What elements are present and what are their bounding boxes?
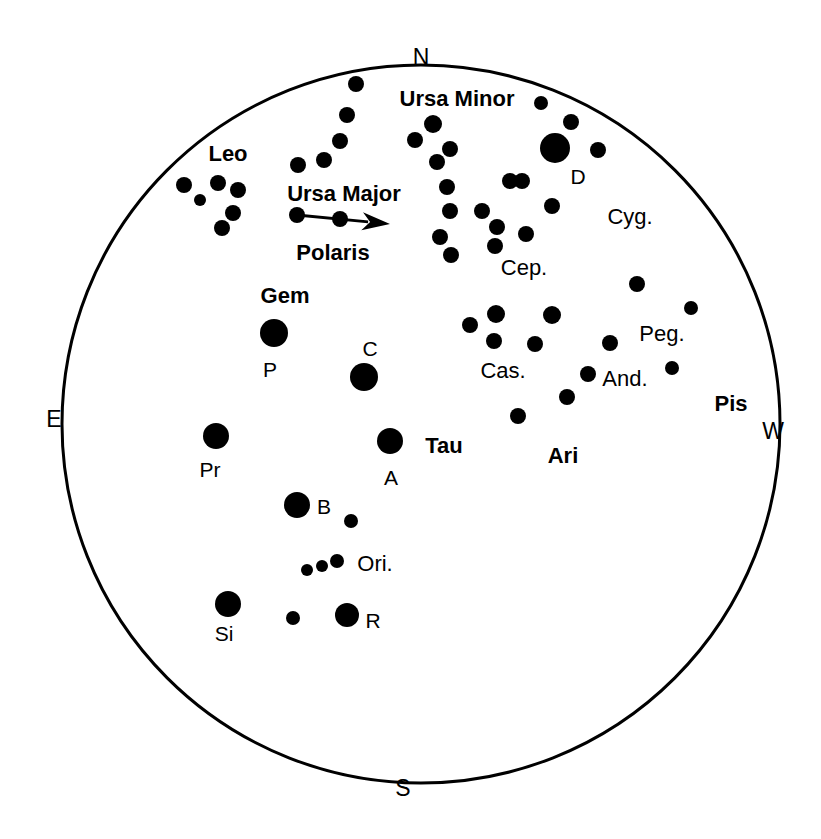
star-dot: [377, 428, 403, 454]
star-dot: [424, 115, 442, 133]
cardinal-south: S: [395, 777, 410, 800]
star-dot: [210, 175, 226, 191]
star-dot: [527, 336, 543, 352]
star-dot: [544, 198, 560, 214]
star-dot: [203, 423, 229, 449]
star-dot: [330, 554, 344, 568]
star-dot: [559, 389, 575, 405]
star-dot: [301, 564, 313, 576]
constellation-label-aries: Ari: [548, 445, 579, 467]
star-dot: [534, 96, 548, 110]
star-dot: [540, 133, 570, 163]
star-dot: [510, 408, 526, 424]
star-dot: [487, 305, 505, 323]
star-dot: [344, 514, 358, 528]
star-dot: [286, 611, 300, 625]
star-label-deneb: D: [570, 166, 585, 187]
star-dot: [543, 306, 561, 324]
star-dot: [214, 220, 230, 236]
constellation-label-orion: Ori.: [357, 553, 392, 575]
star-dot: [629, 276, 645, 292]
star-dot: [518, 226, 534, 242]
star-dot: [407, 132, 423, 148]
star-dot: [284, 492, 310, 518]
star-label-procyon: Pr: [200, 459, 221, 480]
star-dot: [176, 177, 192, 193]
constellation-label-leo: Leo: [208, 143, 247, 165]
star-dot: [429, 154, 445, 170]
constellation-label-ursa-minor: Ursa Minor: [400, 88, 515, 110]
star-dot: [316, 560, 328, 572]
constellation-label-polaris: Polaris: [296, 242, 369, 264]
cardinal-north: N: [413, 46, 430, 69]
star-dot: [260, 319, 288, 347]
star-label-aldebaran: A: [384, 467, 398, 488]
star-dot: [225, 205, 241, 221]
star-dot: [474, 203, 490, 219]
star-dot: [486, 333, 502, 349]
star-label-capella: C: [362, 338, 377, 359]
star-dot: [487, 238, 503, 254]
star-dot: [602, 335, 618, 351]
star-dot: [339, 107, 355, 123]
star-chart-figure: NESWLeoUrsa MinorUrsa MajorPolarisGemTau…: [0, 0, 821, 839]
star-dot: [332, 133, 348, 149]
star-dot: [432, 229, 448, 245]
constellation-label-ursa-major: Ursa Major: [287, 183, 401, 205]
star-dot: [439, 179, 455, 195]
constellation-label-cepheus: Cep.: [501, 257, 547, 279]
star-dot: [442, 141, 458, 157]
constellation-label-cygnus: Cyg.: [607, 206, 652, 228]
star-dot: [230, 182, 246, 198]
star-dot: [684, 301, 698, 315]
star-label-rigel: R: [365, 610, 380, 631]
star-label-pollux: P: [263, 359, 277, 380]
star-dot: [215, 591, 241, 617]
star-dot: [462, 317, 478, 333]
constellation-label-pegasus: Peg.: [639, 323, 684, 345]
star-dot: [590, 142, 606, 158]
constellation-label-pisces: Pis: [714, 393, 747, 415]
sky-canvas: [0, 0, 821, 839]
star-dot: [348, 76, 364, 92]
star-dot: [350, 363, 378, 391]
star-dot: [563, 114, 579, 130]
constellation-label-taurus: Tau: [425, 435, 462, 457]
cardinal-east: E: [46, 408, 61, 431]
star-label-sirius: Si: [215, 623, 234, 644]
star-dot: [665, 361, 679, 375]
star-dot: [443, 247, 459, 263]
star-dot: [194, 194, 206, 206]
constellation-label-andromeda: And.: [602, 368, 647, 390]
star-label-betelgeuse: B: [317, 496, 331, 517]
star-dot: [290, 157, 306, 173]
star-dot: [580, 366, 596, 382]
star-dot: [502, 173, 518, 189]
star-layer: [176, 76, 698, 627]
star-dot: [335, 603, 359, 627]
horizon-circle: [62, 65, 780, 783]
cardinal-west: W: [762, 420, 784, 443]
constellation-label-cassiopeia: Cas.: [480, 360, 525, 382]
star-dot: [316, 152, 332, 168]
constellation-label-gemini: Gem: [261, 285, 310, 307]
star-dot: [489, 219, 505, 235]
star-dot: [442, 203, 458, 219]
